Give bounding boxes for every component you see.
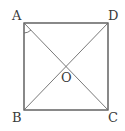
angle-mark-A xyxy=(24,30,31,33)
vertex-label-D: D xyxy=(108,8,118,23)
vertex-label-C: C xyxy=(108,110,118,125)
vertex-label-A: A xyxy=(11,8,22,23)
center-label-O: O xyxy=(61,70,72,85)
vertex-label-B: B xyxy=(12,110,22,125)
square-diagram: A D B C O xyxy=(0,0,125,131)
